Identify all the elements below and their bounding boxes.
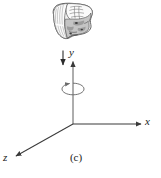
y-axis-label: y bbox=[69, 47, 74, 58]
figure-caption: (c) bbox=[60, 152, 92, 163]
hand-sketch-icon bbox=[53, 3, 92, 38]
z-axis-label: z bbox=[3, 152, 7, 163]
figure-container: y x z (c) bbox=[0, 0, 161, 178]
x-axis-label: x bbox=[145, 116, 150, 127]
